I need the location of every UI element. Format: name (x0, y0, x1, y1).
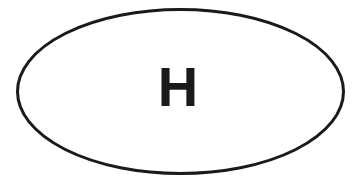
diagram-canvas: H (0, 0, 363, 179)
ellipse-label: H (150, 59, 206, 115)
